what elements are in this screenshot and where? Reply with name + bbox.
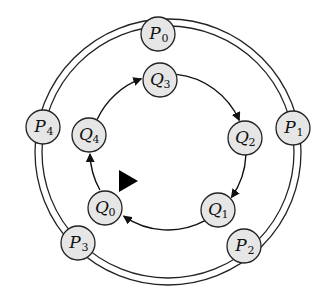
node-label: P (234, 235, 247, 255)
node-subscript: 3 (164, 78, 171, 91)
pointer-triangle-icon (119, 170, 138, 192)
node-subscript: 4 (47, 125, 54, 138)
outer-node-p3: P3 (61, 226, 95, 260)
outer-node-p0: P0 (141, 17, 175, 51)
inner-node-q3: Q3 (143, 63, 177, 97)
outer-node-p2: P2 (227, 229, 261, 263)
edge-Q3-to-Q2 (176, 74, 239, 120)
node-label: P (33, 116, 46, 136)
inner-node-q4: Q4 (72, 118, 106, 152)
node-label: P (283, 117, 296, 137)
outer-node-p4: P4 (26, 110, 60, 144)
node-subscript: 0 (109, 206, 116, 219)
ring-diagram: P0P1P2P3P4 Q0Q1Q2Q3Q4 (0, 0, 330, 293)
outer-node-p1: P1 (276, 111, 310, 145)
node-label: Q (235, 127, 249, 147)
node-subscript: 2 (248, 244, 255, 257)
node-label: Q (208, 199, 222, 219)
node-label: Q (95, 197, 109, 217)
edge-Q1-to-Q0 (124, 216, 205, 230)
node-subscript: 2 (249, 136, 256, 149)
node-label: Q (79, 124, 93, 144)
outer-ring-nodes: P0P1P2P3P4 (26, 17, 310, 263)
inner-node-q2: Q2 (228, 121, 262, 155)
node-label: P (68, 232, 81, 252)
node-label: P (148, 23, 161, 43)
edge-Q2-to-Q1 (231, 155, 246, 197)
node-subscript: 0 (162, 32, 169, 45)
node-subscript: 1 (297, 126, 304, 139)
inner-ring-nodes: Q0Q1Q2Q3Q4 (72, 63, 262, 227)
inner-node-q0: Q0 (88, 191, 122, 225)
node-subscript: 1 (222, 208, 229, 221)
edge-Q4-to-Q3 (97, 79, 141, 120)
node-subscript: 3 (82, 241, 89, 254)
node-subscript: 4 (93, 133, 100, 146)
inner-node-q1: Q1 (201, 193, 235, 227)
node-label: Q (150, 69, 164, 89)
edge-Q0-to-Q4 (90, 154, 100, 190)
